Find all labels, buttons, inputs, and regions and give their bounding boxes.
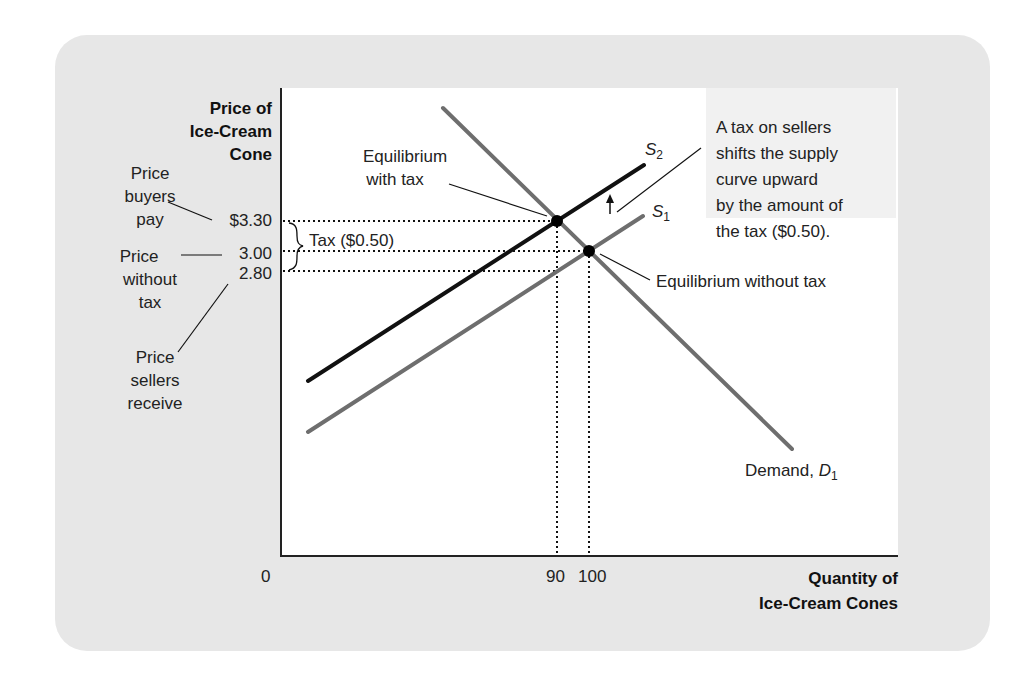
price-buyers-pay-label: Price buyers pay	[105, 162, 195, 231]
shift-arrow-icon	[606, 194, 614, 214]
label-line: with tax	[330, 168, 460, 191]
demand-label: Demand, D1	[745, 461, 838, 486]
y-axis-title-line: Price of	[150, 97, 272, 120]
note-line: the tax ($0.50).	[716, 219, 843, 245]
guide-lines	[283, 221, 589, 555]
s1-subscript: 1	[663, 210, 670, 224]
price-sellers-receive-label: Price sellers receive	[110, 346, 200, 415]
label-line: pay	[105, 208, 195, 231]
s2-letter: S	[645, 140, 656, 159]
label-line: sellers	[110, 369, 200, 392]
tax-note: A tax on sellers shifts the supply curve…	[716, 115, 843, 245]
supply-curve-s2	[308, 165, 644, 381]
x-tick-0: 0	[261, 567, 270, 587]
y-axis-title: Price of Ice-Cream Cone	[150, 97, 272, 166]
y-tick-330: $3.30	[190, 211, 272, 231]
label-line: Equilibrium	[350, 145, 460, 168]
x-tick-90: 90	[546, 567, 565, 587]
label-line: buyers	[105, 185, 195, 208]
x-axis-title-line: Quantity of	[720, 566, 898, 591]
demand-text: Demand,	[745, 461, 819, 480]
equilibrium-without-tax-label: Equilibrium without tax	[656, 272, 826, 292]
label-line: Price	[105, 162, 195, 185]
s2-label: S2	[645, 140, 663, 165]
label-line: without	[105, 268, 195, 291]
x-tick-100: 100	[578, 567, 606, 587]
demand-letter: D	[819, 461, 831, 480]
note-line: by the amount of	[716, 193, 843, 219]
y-axis-title-line: Ice-Cream	[150, 120, 272, 143]
note-line: shifts the supply	[716, 141, 843, 167]
equilibrium-without-tax-point	[583, 245, 595, 257]
note-line: curve upward	[716, 167, 843, 193]
s1-label: S1	[652, 202, 670, 227]
y-tick-300: 3.00	[190, 244, 272, 264]
note-line: A tax on sellers	[716, 115, 843, 141]
demand-subscript: 1	[831, 469, 838, 483]
label-line: tax	[105, 291, 195, 314]
tax-bracket-label: Tax ($0.50)	[309, 231, 394, 251]
s1-letter: S	[652, 202, 663, 221]
label-line: Price	[110, 346, 200, 369]
price-without-tax-label: Price without tax	[105, 245, 195, 314]
tax-brace-icon	[289, 223, 303, 270]
x-axis-title-line: Ice-Cream Cones	[720, 591, 898, 616]
equilibrium-with-tax-label: Equilibrium with tax	[350, 145, 460, 191]
label-line: Price	[83, 245, 195, 268]
equilibrium-with-tax-point	[551, 215, 563, 227]
y-tick-280: 2.80	[190, 264, 272, 284]
s2-subscript: 2	[656, 148, 663, 162]
x-axis-title: Quantity of Ice-Cream Cones	[720, 566, 898, 616]
label-line: receive	[110, 392, 200, 415]
